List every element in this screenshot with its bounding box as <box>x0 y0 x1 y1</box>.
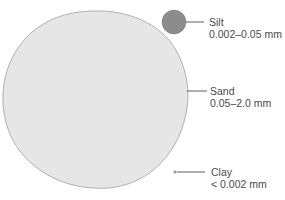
silt-particle-shape <box>162 10 186 34</box>
silt-label: Silt 0.002–0.05 mm <box>209 16 282 40</box>
clay-range: < 0.002 mm <box>211 178 267 190</box>
clay-label: Clay < 0.002 mm <box>211 166 267 190</box>
sand-particle-shape <box>3 11 188 188</box>
sand-range: 0.05–2.0 mm <box>210 97 271 109</box>
clay-particle-shape <box>173 170 176 173</box>
silt-name: Silt <box>209 16 282 28</box>
silt-range: 0.002–0.05 mm <box>209 28 282 40</box>
sand-label: Sand 0.05–2.0 mm <box>210 85 271 109</box>
sand-name: Sand <box>210 85 271 97</box>
clay-name: Clay <box>211 166 267 178</box>
